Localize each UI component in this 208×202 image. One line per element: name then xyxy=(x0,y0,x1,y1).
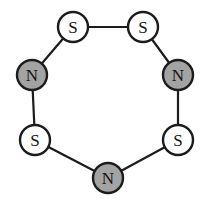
ring-structure-diagram: SSNSNSN xyxy=(0,0,208,202)
atom-layer: SSNSNSN xyxy=(17,12,193,193)
atom-node-sulfur-lower-right: S xyxy=(163,125,193,155)
atom-node-sulfur-top-right: S xyxy=(128,12,158,42)
atom-label-a2: N xyxy=(172,66,184,85)
ring-diagram-canvas: SSNSNSN xyxy=(0,0,208,202)
atom-node-nitrogen-left: N xyxy=(17,60,47,90)
atom-node-sulfur-top-left: S xyxy=(58,12,88,42)
atom-node-sulfur-lower-left: S xyxy=(20,125,50,155)
bond-layer xyxy=(32,27,178,178)
atom-label-a4: N xyxy=(102,169,114,188)
atom-node-nitrogen-right: N xyxy=(163,60,193,90)
atom-label-a0: S xyxy=(68,18,77,37)
atom-label-a6: N xyxy=(26,66,38,85)
atom-node-nitrogen-bottom: N xyxy=(93,163,123,193)
atom-label-a3: S xyxy=(173,131,182,150)
atom-label-a5: S xyxy=(30,131,39,150)
atom-label-a1: S xyxy=(138,18,147,37)
